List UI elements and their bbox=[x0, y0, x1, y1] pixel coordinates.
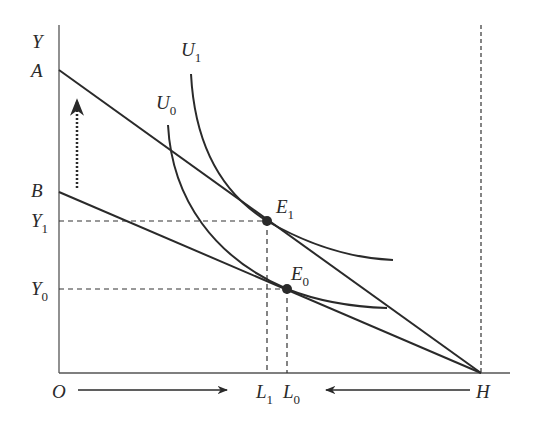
indifference-curve-u1 bbox=[191, 74, 393, 260]
intercept-a-label: A bbox=[29, 60, 43, 81]
e1-label: E1 bbox=[275, 196, 294, 222]
y1-label: Y1 bbox=[31, 210, 48, 236]
h-label: H bbox=[475, 381, 491, 402]
y-axis-label: Y bbox=[32, 31, 45, 52]
u0-label: U0 bbox=[156, 92, 176, 118]
e0-label: E0 bbox=[290, 263, 309, 289]
u1-label: U1 bbox=[181, 39, 201, 65]
l1-label: L1 bbox=[255, 381, 273, 407]
equilibrium-point-e0 bbox=[282, 284, 292, 294]
intercept-b-label: B bbox=[31, 180, 43, 201]
labor-supply-diagram: Y A B O H Y1 Y0 L1 L0 U1 U0 E1 E0 bbox=[0, 0, 540, 428]
equilibrium-point-e1 bbox=[262, 216, 272, 226]
origin-label: O bbox=[52, 381, 66, 402]
l0-label: L0 bbox=[282, 381, 300, 407]
y0-label: Y0 bbox=[31, 278, 48, 304]
